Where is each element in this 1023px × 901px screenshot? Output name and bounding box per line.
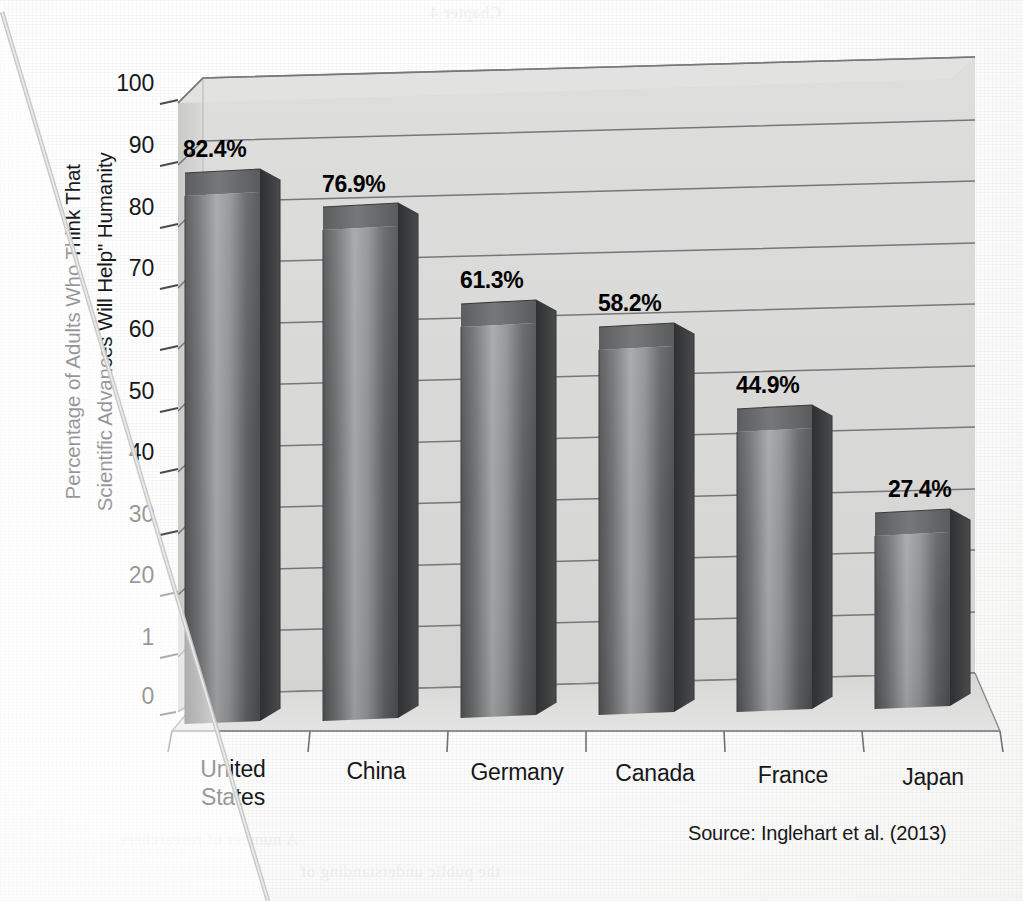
y-tick-0: 0	[88, 683, 154, 710]
value-label-united-states: 82.4%	[183, 136, 246, 163]
value-label-france: 44.9%	[736, 372, 799, 399]
category-label-germany: Germany	[447, 758, 587, 786]
bar-china[interactable]	[323, 203, 418, 721]
y-tick-100: 100	[88, 70, 154, 97]
bar-germany[interactable]	[461, 300, 556, 718]
y-axis-ticks	[160, 100, 178, 715]
bar-chart: 100 90 80 70 60 50 40 30 20 1 0 82.4% 76…	[0, 0, 1023, 901]
y-axis-title: Percentage of Adults Who Think That Scie…	[57, 147, 121, 517]
source-note: Source: Inglehart et al. (2013)	[688, 822, 946, 845]
category-label-united-states: United States	[168, 755, 298, 811]
bar-japan[interactable]	[875, 509, 970, 709]
value-label-germany: 61.3%	[460, 267, 523, 294]
value-label-china: 76.9%	[322, 171, 385, 198]
y-tick-10: 1	[88, 624, 154, 651]
category-label-china: China	[311, 757, 441, 785]
category-label-japan: Japan	[868, 763, 998, 791]
y-axis-title-line2: Scientific Advances Will Help" Humanity	[89, 147, 121, 517]
y-axis-title-line1: Percentage of Adults Who Think That	[57, 147, 89, 517]
category-label-canada: Canada	[590, 759, 720, 787]
bar-france[interactable]	[737, 405, 832, 712]
y-tick-20: 20	[88, 562, 154, 589]
value-label-japan: 27.4%	[888, 476, 951, 503]
bar-canada[interactable]	[599, 323, 694, 715]
value-label-canada: 58.2%	[598, 290, 661, 317]
bar-united-states[interactable]	[185, 169, 280, 724]
plot-back-wall	[178, 57, 975, 712]
category-label-france: France	[728, 761, 858, 789]
